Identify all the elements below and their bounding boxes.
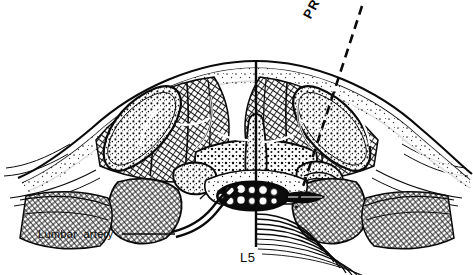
vertebral-level-label: L5 [240, 250, 255, 265]
psoas-major-left [20, 192, 112, 249]
lumbar-artery-label: Lumbar artery [38, 228, 113, 240]
psoas-major-right [362, 192, 454, 249]
lumbar-cross-section-figure: Lumbar artery L5 PROBE [0, 0, 473, 275]
